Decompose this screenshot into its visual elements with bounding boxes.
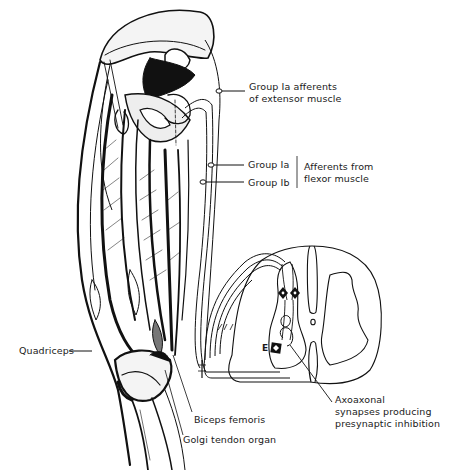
- spinal-cord: [229, 246, 382, 402]
- label-motor-neuron-e: E: [262, 343, 268, 354]
- label-axoaxonal-2: synapses producing: [335, 406, 432, 417]
- label-biceps-femoris: Biceps femoris: [194, 414, 265, 425]
- label-group-ia-extensor-2: of extensor muscle: [249, 93, 342, 104]
- label-group-ia-extensor-1: Group Ia afferents: [249, 81, 337, 92]
- label-golgi-tendon-organ: Golgi tendon organ: [183, 434, 276, 445]
- label-group-ib-flexor: Group Ib: [248, 177, 290, 188]
- label-flexor-afferents-2: flexor muscle: [304, 173, 369, 184]
- label-axoaxonal-3: presynaptic inhibition: [335, 418, 440, 429]
- leg-illustration: [78, 10, 214, 470]
- label-axoaxonal-1: Axoaxonal: [335, 394, 385, 405]
- label-flexor-afferents-1: Afferents from: [304, 161, 373, 172]
- label-quadriceps: Quadriceps: [19, 345, 74, 356]
- interneuron-markers: [270, 287, 300, 354]
- label-group-ia-flexor: Group Ia: [248, 159, 289, 170]
- diagram-canvas: Group Ia afferents of extensor muscle Gr…: [0, 0, 451, 470]
